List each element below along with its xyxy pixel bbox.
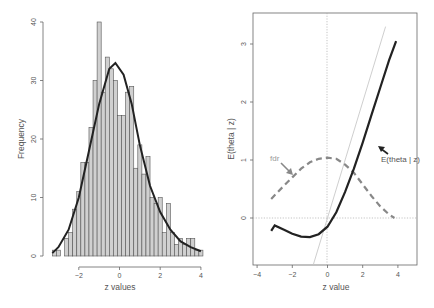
x-axis-ticks: −2024 — [75, 267, 203, 279]
histogram-bar — [150, 198, 154, 257]
histogram-bar — [170, 233, 174, 256]
histogram-bars — [52, 22, 203, 256]
y-tick-label: 0 — [240, 216, 247, 220]
histogram-bar — [134, 168, 138, 256]
x-tick-label: 4 — [396, 271, 400, 278]
fdr-label: fdr — [270, 154, 280, 163]
histogram-bar — [109, 69, 113, 256]
histogram-bar — [65, 238, 69, 256]
histogram-bar — [56, 250, 60, 256]
x-axis-title: z values — [104, 282, 135, 292]
histogram-bar — [101, 92, 105, 256]
histogram-bar — [162, 233, 166, 256]
x-tick-label: 0 — [118, 272, 122, 279]
fdr-curve — [271, 158, 394, 218]
histogram-bar — [138, 145, 142, 256]
x-tick-label: −2 — [288, 271, 296, 278]
y-tick-label: 30 — [30, 77, 37, 85]
x-tick-label: 2 — [361, 271, 365, 278]
x-axis-ticks: −4−2024 — [253, 265, 400, 278]
histogram-bar — [126, 92, 130, 256]
histogram-bar — [69, 233, 73, 256]
x-axis-title: z value — [323, 282, 350, 292]
etheta-curve — [271, 41, 396, 237]
y-tick-label: 1 — [240, 158, 247, 162]
histogram-bar — [174, 244, 178, 256]
histogram-bar — [97, 22, 101, 256]
histogram-bar — [154, 203, 158, 256]
y-tick-label: 2 — [240, 100, 247, 104]
histogram-bar — [85, 162, 89, 256]
x-tick-label: −4 — [253, 271, 261, 278]
histogram-bar — [117, 116, 121, 256]
y-tick-label: 3 — [240, 42, 247, 46]
x-tick-label: 4 — [199, 272, 203, 279]
posterior-panel: 0123 −4−2024 z value E(theta | z) fdr E(… — [226, 13, 420, 292]
fdr-arrow-icon — [281, 163, 293, 175]
figure-canvas: 010203040 −2024 z values Frequency 0123 … — [0, 0, 434, 308]
y-tick-label: 20 — [30, 135, 37, 143]
y-tick-label: 10 — [30, 194, 37, 202]
histogram-bar — [93, 81, 97, 257]
y-axis-ticks: 0123 — [240, 42, 253, 220]
y-tick-label: 40 — [30, 18, 37, 26]
etheta-arrow-icon — [378, 146, 388, 154]
y-axis-title: Frequency — [16, 118, 26, 159]
x-tick-label: −2 — [75, 272, 83, 279]
y-axis-ticks: 010203040 — [30, 18, 43, 258]
histogram-bar — [105, 57, 109, 256]
histogram-bar — [183, 244, 187, 256]
histogram-panel: 010203040 −2024 z values Frequency — [16, 18, 203, 292]
etheta-label: E(theta | z) — [381, 155, 420, 164]
histogram-bar — [122, 116, 126, 256]
histogram-bar — [113, 81, 117, 257]
histogram-bar — [142, 174, 146, 256]
x-tick-label: 0 — [326, 271, 330, 278]
x-tick-label: 2 — [158, 272, 162, 279]
y-axis-title: E(theta | z) — [226, 118, 236, 160]
y-tick-label: 0 — [30, 254, 37, 258]
